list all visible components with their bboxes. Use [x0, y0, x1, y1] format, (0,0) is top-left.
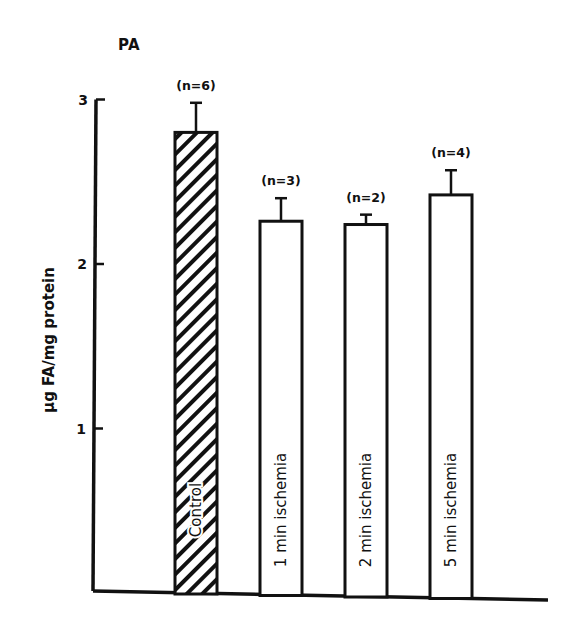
bar-group: (n=4)5 min ischemia: [430, 145, 472, 598]
bar-group: (n=3)1 min ischemia: [260, 173, 302, 595]
n-label: (n=6): [176, 78, 216, 93]
category-label: 1 min ischemia: [272, 453, 290, 567]
n-label: (n=2): [346, 190, 386, 205]
bars: (n=6)Control(n=3)1 min ischemia(n=2)2 mi…: [175, 78, 472, 599]
axes: 123: [76, 92, 548, 601]
n-label: (n=3): [261, 173, 301, 188]
category-label: 2 min ischemia: [357, 453, 375, 567]
y-axis-line: [93, 100, 96, 592]
y-tick-label: 3: [78, 92, 88, 108]
y-tick-label: 1: [76, 421, 86, 437]
bar-group: (n=2)2 min ischemia: [345, 190, 387, 597]
bar-chart: 123 (n=6)Control(n=3)1 min ischemia(n=2)…: [0, 0, 581, 638]
x-axis-line: [93, 591, 548, 600]
category-label: 5 min ischemia: [442, 453, 460, 567]
n-label: (n=4): [431, 145, 471, 160]
category-label: Control: [187, 483, 205, 537]
y-tick-label: 2: [77, 256, 87, 272]
bar-group: (n=6)Control: [175, 78, 217, 594]
